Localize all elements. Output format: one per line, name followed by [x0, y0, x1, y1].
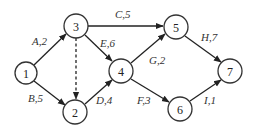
edge-label-f: F,3: [136, 94, 151, 106]
node-label-2: 2: [72, 106, 78, 120]
edge-label-g: G,2: [149, 54, 166, 66]
edge-label-e: E,6: [99, 37, 115, 49]
edge-label-d: D,4: [95, 94, 113, 106]
node-label-7: 7: [227, 65, 233, 79]
node-1: 1: [15, 62, 37, 84]
node-label-1: 1: [23, 67, 29, 81]
node-4: 4: [109, 59, 133, 83]
node-7: 7: [218, 59, 242, 83]
edge-label-a: A,2: [31, 35, 47, 47]
edge-label-i: I,1: [203, 94, 216, 106]
edge-label-b: B,5: [28, 92, 43, 104]
node-label-4: 4: [118, 65, 124, 79]
node-6: 6: [168, 97, 192, 121]
network-diagram: A,2 B,5 C,5 E,6 D,4 G,2 F,3 H,7 I,1 1 2 …: [0, 0, 256, 130]
node-2: 2: [63, 100, 87, 124]
node-5: 5: [164, 15, 188, 39]
node-label-6: 6: [177, 103, 183, 117]
node-3: 3: [64, 14, 88, 38]
edge-label-c: C,5: [115, 8, 131, 20]
edge-labels: A,2 B,5 C,5 E,6 D,4 G,2 F,3 H,7 I,1: [28, 8, 218, 106]
edge-label-h: H,7: [200, 31, 218, 43]
node-label-5: 5: [173, 21, 179, 35]
node-label-3: 3: [73, 20, 79, 34]
